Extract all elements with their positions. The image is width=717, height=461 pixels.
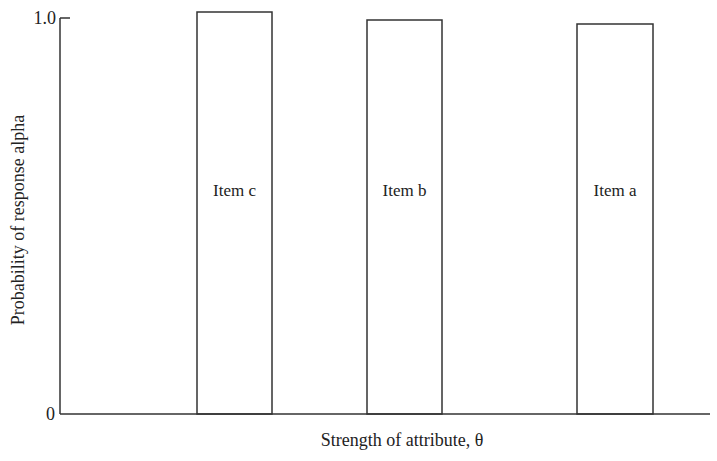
- bar-label: Item b: [383, 181, 427, 200]
- y-tick-label-bottom: 0: [46, 404, 55, 424]
- x-axis-label: Strength of attribute, θ: [321, 430, 484, 450]
- step-function-chart: Item cItem bItem a 1.0 0 Strength of att…: [0, 0, 717, 461]
- y-tick-label-top: 1.0: [34, 8, 57, 28]
- bar-label: Item a: [594, 181, 637, 200]
- bar-item-c: [197, 12, 272, 414]
- bar-item-a: [577, 24, 653, 414]
- bar-label: Item c: [213, 181, 256, 200]
- bars-group: Item cItem bItem a: [197, 12, 653, 414]
- y-axis-label: Probability of response alpha: [8, 115, 28, 325]
- bar-item-b: [367, 20, 442, 414]
